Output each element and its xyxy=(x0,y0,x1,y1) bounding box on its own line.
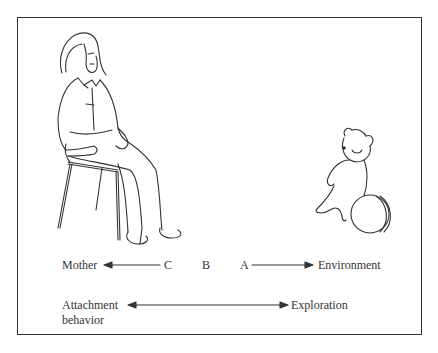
ball-illustration xyxy=(351,195,390,233)
teddy-bear-illustration xyxy=(316,128,373,220)
point-c-label: C xyxy=(164,258,172,272)
point-a-label: A xyxy=(240,258,249,272)
exploration-label: Exploration xyxy=(291,298,348,312)
attachment-label: Attachment xyxy=(62,298,118,312)
mother-label: Mother xyxy=(62,258,97,272)
behavior-label: behavior xyxy=(62,313,104,327)
chair-illustration xyxy=(58,144,120,240)
point-b-label: B xyxy=(202,258,210,272)
environment-label: Environment xyxy=(318,258,381,272)
